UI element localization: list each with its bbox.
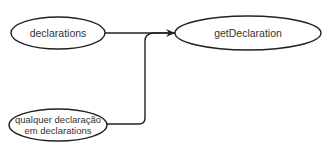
node-declarations[interactable]: declarations bbox=[11, 17, 105, 49]
diagram-canvas: declarations getDeclaration qualquer dec… bbox=[0, 0, 336, 147]
edge-qualquer-to-getdeclaration bbox=[107, 33, 175, 124]
node-getdeclaration-label: getDeclaration bbox=[214, 27, 282, 39]
node-qualquer-label-line2: em declarations bbox=[24, 125, 91, 136]
node-qualquer-label-line1: qualquer declaração bbox=[15, 114, 101, 125]
node-getdeclaration[interactable]: getDeclaration bbox=[175, 16, 321, 50]
node-qualquer-declaracao[interactable]: qualquer declaração em declarations bbox=[9, 109, 107, 141]
node-declarations-label: declarations bbox=[30, 27, 87, 39]
